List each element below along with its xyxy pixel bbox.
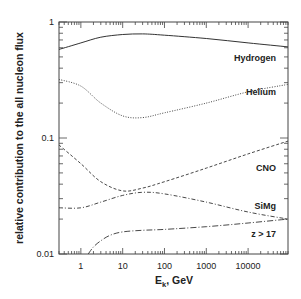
x-axis-title: Ek, GeV xyxy=(155,274,193,289)
x-tick-label: 1 xyxy=(78,261,83,271)
y-tick-labels: 10.10.01 xyxy=(36,17,54,259)
series-cno-line xyxy=(59,141,288,191)
chart: 110100100010000 10.10.01 HydrogenHeliumC… xyxy=(0,0,301,299)
x-tick-label: 10 xyxy=(118,261,128,271)
series-label: z > 17 xyxy=(251,229,276,239)
y-tick-label: 1 xyxy=(49,17,54,27)
series-label: CNO xyxy=(256,163,276,173)
series-label: Hydrogen xyxy=(234,53,276,63)
y-axis-title: relative contribution to the all nucleon… xyxy=(13,32,25,244)
series-curves xyxy=(59,34,288,254)
y-tick-label: 0.01 xyxy=(36,249,54,259)
series-helium-line xyxy=(59,79,288,118)
series-labels: HydrogenHeliumCNOSiMgz > 17 xyxy=(234,53,276,239)
series-label: SiMg xyxy=(255,201,277,211)
series-label: Helium xyxy=(246,87,276,97)
y-tick-label: 0.1 xyxy=(41,133,54,143)
x-tick-labels: 110100100010000 xyxy=(78,261,260,271)
series-hydrogen-line xyxy=(59,34,288,50)
x-tick-label: 100 xyxy=(157,261,172,271)
x-tick-label: 1000 xyxy=(196,261,216,271)
x-tick-label: 10000 xyxy=(236,261,261,271)
